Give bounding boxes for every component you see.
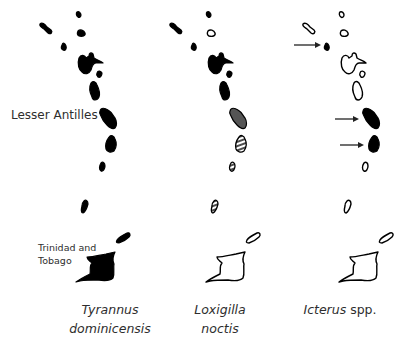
- island-tobago-filled: [116, 233, 130, 243]
- island-marie-galante-filled: [97, 71, 102, 77]
- island-st-lucia-hatched: [236, 136, 246, 153]
- island-north-round-outline: [207, 30, 215, 36]
- island-st-vincent-filled: [100, 162, 106, 171]
- island-west-small-filled: [191, 43, 196, 50]
- island-grenada-hatched: [211, 200, 218, 213]
- island-north-diagonal-filled: [170, 23, 182, 33]
- island-north-small-outline: [339, 12, 344, 18]
- caption-tyrannus: Tyrannus dominicensis: [55, 300, 165, 338]
- arrow-head-island-9: [358, 142, 364, 148]
- island-marie-galante-outline: [360, 71, 365, 77]
- island-st-vincent-hatched: [230, 162, 236, 171]
- caption-icterus-genus: Icterus: [303, 302, 346, 317]
- island-martinique-filled: [100, 108, 117, 128]
- island-martinique-gray: [230, 108, 247, 128]
- caption-icterus-spp: spp.: [346, 302, 376, 317]
- caption-loxigilla: Loxigilla noctis: [175, 300, 265, 338]
- trinidad-tobago-label: Trinidad and Tobago: [38, 241, 96, 267]
- island-tobago-outline: [246, 233, 260, 243]
- arrow-head-island-8: [353, 116, 359, 122]
- island-north-small-filled: [206, 12, 211, 18]
- caption-loxigilla-species: noctis: [175, 319, 265, 338]
- island-north-round-filled: [77, 30, 85, 36]
- island-st-lucia-filled: [369, 136, 379, 153]
- caption-tyrannus-species: dominicensis: [55, 319, 165, 338]
- island-martinique-filled: [363, 108, 380, 128]
- island-north-round-outline: [340, 30, 348, 36]
- island-grenada-filled: [81, 200, 88, 213]
- island-trinidad-outline: [206, 252, 245, 282]
- trinidad-label-line2: Tobago: [38, 254, 96, 267]
- island-dominica-filled: [90, 82, 99, 100]
- trinidad-label-line1: Trinidad and: [38, 241, 96, 254]
- panel-2: [170, 12, 260, 282]
- panel-3: [294, 12, 393, 282]
- range-map-figure: [0, 0, 394, 339]
- island-north-diagonal-filled: [40, 23, 52, 33]
- arrow-head-island-4: [315, 42, 321, 48]
- lesser-antilles-label: Lesser Antilles: [11, 108, 98, 122]
- island-west-small-filled: [61, 43, 66, 50]
- island-north-small-filled: [76, 12, 81, 18]
- island-marie-galante-filled: [227, 71, 232, 77]
- island-tobago-outline: [379, 233, 393, 243]
- island-st-lucia-filled: [106, 136, 116, 153]
- caption-loxigilla-genus: Loxigilla: [175, 300, 265, 319]
- caption-icterus: Icterus spp.: [290, 300, 390, 319]
- island-dominica-outline: [353, 82, 362, 100]
- island-north-diagonal-outline: [303, 23, 315, 33]
- island-trinidad-outline: [339, 252, 378, 282]
- island-dominica-filled: [220, 82, 229, 100]
- island-st-vincent-outline: [363, 162, 369, 171]
- island-grenada-outline: [344, 200, 351, 213]
- island-west-small-filled: [324, 43, 329, 50]
- caption-tyrannus-genus: Tyrannus: [55, 300, 165, 319]
